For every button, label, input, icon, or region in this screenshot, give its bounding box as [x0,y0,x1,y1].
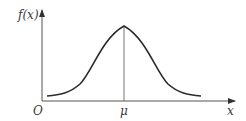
x-axis-label: x [227,104,234,118]
y-axis-label: f(x) [17,8,39,22]
mean-label: μ [120,104,128,118]
normal-distribution-diagram: f(x) O μ x [0,0,246,121]
origin-label: O [33,104,43,118]
